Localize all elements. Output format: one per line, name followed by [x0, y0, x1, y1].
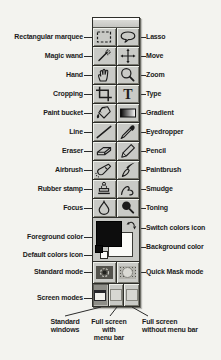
mask-mode-row	[93, 261, 139, 283]
paintbrush-tool[interactable]	[117, 161, 140, 179]
label-focus: Focus	[63, 204, 83, 212]
connector-line	[140, 94, 146, 95]
standard-windows-icon	[94, 290, 106, 301]
label-airbrush: Airbrush	[55, 166, 83, 174]
label-line: Line	[69, 128, 83, 136]
paint-bucket-tool[interactable]	[93, 104, 116, 122]
hand-icon	[95, 67, 113, 83]
hand-tool[interactable]	[93, 66, 116, 84]
label-standard-windows: Standard windows	[44, 318, 86, 334]
paintbrush-icon	[119, 162, 137, 178]
label-type: Type	[146, 90, 161, 98]
connector-line	[140, 56, 146, 57]
move-icon	[119, 48, 137, 64]
gradient-tool[interactable]	[117, 104, 140, 122]
label-screen-modes: Screen modes	[37, 294, 83, 302]
screen-modes-row	[93, 283, 139, 306]
standard-mode-icon	[96, 266, 113, 279]
label-line: menu bar	[86, 334, 132, 342]
label-switch-colors-icon: Switch colors icon	[146, 224, 205, 232]
toolbox-palette: T	[92, 17, 140, 307]
eraser-icon	[95, 143, 113, 159]
default-colors-icon[interactable]	[95, 245, 107, 258]
focus-tool[interactable]	[93, 199, 116, 217]
airbrush-icon	[95, 162, 113, 178]
smudge-tool[interactable]	[117, 180, 140, 198]
standard-windows-button[interactable]	[93, 284, 108, 306]
label-smudge: Smudge	[146, 185, 173, 193]
palette-titlebar[interactable]	[93, 18, 139, 28]
connector-line	[140, 151, 146, 152]
switch-colors-icon[interactable]	[126, 220, 137, 230]
label-line: with	[86, 326, 132, 334]
lasso-tool[interactable]	[117, 28, 140, 46]
label-rubber-stamp: Rubber stamp	[38, 185, 83, 193]
quick-mask-circle	[122, 267, 133, 278]
magic-wand-icon	[95, 48, 113, 64]
smudge-icon	[119, 181, 137, 197]
rectangular-marquee-tool[interactable]	[93, 28, 116, 46]
toning-icon	[119, 200, 137, 216]
rubber-stamp-tool[interactable]	[93, 180, 116, 198]
full-screen-without-menubar-button[interactable]	[124, 284, 139, 306]
zoom-tool[interactable]	[117, 66, 140, 84]
label-foreground-color: Foreground color	[27, 233, 83, 241]
zoom-icon	[119, 67, 137, 83]
label-paintbrush: Paintbrush	[146, 166, 181, 174]
connector-line	[140, 37, 146, 38]
full-screen-no-menubar-icon	[126, 289, 138, 301]
eraser-tool[interactable]	[93, 142, 116, 160]
type-tool[interactable]: T	[117, 85, 140, 103]
toning-tool[interactable]	[117, 199, 140, 217]
label-paint-bucket: Paint bucket	[43, 109, 83, 117]
connector-line	[140, 189, 146, 190]
label-lasso: Lasso	[146, 33, 165, 41]
line-icon	[95, 124, 113, 140]
label-eraser: Eraser	[62, 147, 83, 155]
connector-line	[140, 75, 146, 76]
eyedropper-icon	[119, 124, 137, 140]
eyedropper-tool[interactable]	[117, 123, 140, 141]
default-foreground-mini-swatch	[95, 245, 103, 253]
label-line: Full screen	[86, 318, 132, 326]
label-background-color: Background color	[146, 243, 204, 251]
lasso-icon	[119, 29, 137, 45]
label-hand: Hand	[66, 71, 83, 79]
connector-line	[140, 113, 146, 114]
label-zoom: Zoom	[146, 71, 164, 79]
type-icon: T	[119, 86, 137, 102]
label-standard-mode: Standard mode	[34, 268, 83, 276]
label-line: windows	[44, 326, 86, 334]
full-screen-with-menubar-button[interactable]	[109, 284, 124, 306]
connector-line	[140, 132, 146, 133]
pencil-tool[interactable]	[117, 142, 140, 160]
label-line: Full screen	[142, 318, 198, 326]
magic-wand-tool[interactable]	[93, 47, 116, 65]
cropping-icon	[95, 86, 113, 102]
color-section	[93, 217, 139, 261]
label-line: without menu bar	[142, 326, 198, 334]
label-move: Move	[146, 52, 163, 60]
paint-bucket-icon	[95, 105, 113, 121]
line-tool[interactable]	[93, 123, 116, 141]
tool-grid: T	[93, 28, 139, 217]
label-quick-mask-mode: Quick Mask mode	[146, 268, 203, 276]
move-tool[interactable]	[117, 47, 140, 65]
quick-mask-mode-button[interactable]	[117, 262, 140, 283]
rubber-stamp-icon	[95, 181, 113, 197]
airbrush-tool[interactable]	[93, 161, 116, 179]
window-titlebar-glyph	[95, 291, 105, 293]
standard-mode-button[interactable]	[93, 262, 116, 283]
label-gradient: Gradient	[146, 109, 174, 117]
label-eyedropper: Eyedropper	[146, 128, 183, 136]
label-pencil: Pencil	[146, 147, 166, 155]
focus-icon	[95, 200, 113, 216]
connector-line	[140, 208, 146, 209]
label-full-screen-without-menubar: Full screen without menu bar	[142, 318, 198, 334]
gradient-icon	[119, 105, 137, 121]
cropping-tool[interactable]	[93, 85, 116, 103]
foreground-color-swatch[interactable]	[96, 221, 122, 247]
quick-mask-icon	[119, 266, 136, 279]
pencil-icon	[119, 143, 137, 159]
label-line: Standard	[44, 318, 86, 326]
